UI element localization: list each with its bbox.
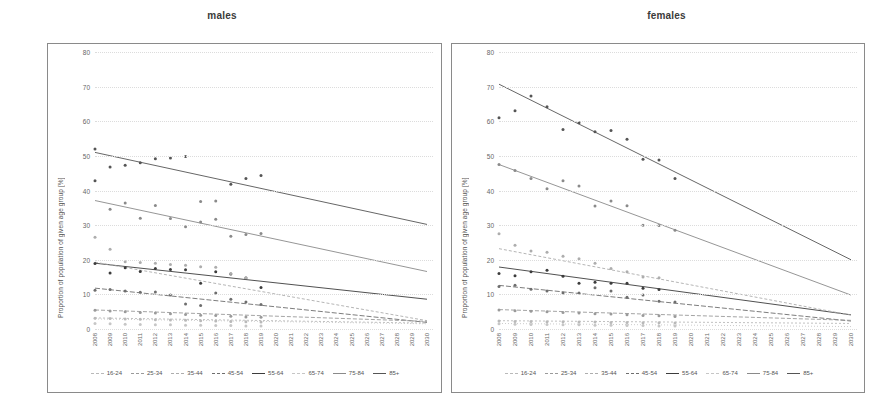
panel-females: females Proportion of population of give… [444, 0, 889, 413]
data-point-65-74 [546, 323, 549, 326]
data-point-45-54 [594, 286, 597, 289]
data-point-25-34 [94, 309, 97, 312]
data-point-65-74 [610, 324, 613, 327]
data-point-16-24 [244, 320, 247, 323]
legend-item-65-74[interactable]: 65-74 [292, 370, 323, 376]
x-axis-tick: 2009 [512, 333, 518, 346]
legend-item-25-34[interactable]: 25-34 [545, 370, 576, 376]
legend-item-16-24[interactable]: 16-24 [505, 370, 536, 376]
x-axis-tick: 2029 [409, 333, 415, 346]
legend-swatch-icon [585, 373, 598, 374]
data-point-75-84 [626, 204, 629, 207]
data-point-65-74 [658, 324, 661, 327]
x-axis-tick: 2012 [560, 333, 566, 346]
panel-males: males Proportion of population of given … [0, 0, 444, 413]
data-point-45-54 [94, 289, 97, 292]
legend-item-35-44[interactable]: 35-44 [171, 370, 202, 376]
legend-swatch-icon [212, 373, 225, 374]
legend-item-55-64[interactable]: 55-64 [666, 370, 697, 376]
data-point-85+ [169, 156, 172, 159]
data-point-25-34 [626, 313, 629, 316]
data-point-55-64 [546, 269, 549, 272]
data-point-25-34 [658, 314, 661, 317]
data-point-16-24 [578, 321, 581, 324]
x-axis-tick: 2011 [544, 333, 550, 346]
x-axis-tick: 2028 [816, 333, 822, 346]
data-point-25-34 [139, 311, 142, 314]
data-point-16-24 [626, 321, 629, 324]
data-point-55-64 [578, 282, 581, 285]
data-point-65-74 [244, 324, 247, 327]
data-point-16-24 [139, 318, 142, 321]
legend-item-65-74[interactable]: 65-74 [706, 370, 737, 376]
x-axis-tick: 2015 [608, 333, 614, 346]
legend-swatch-icon [505, 373, 518, 374]
data-point-85+ [514, 109, 517, 112]
x-axis-tick: 2022 [720, 333, 726, 346]
y-gridline [499, 260, 857, 261]
legend-item-55-64[interactable]: 55-64 [252, 370, 283, 376]
legend-label: 65-74 [722, 370, 737, 376]
data-point-55-64 [642, 287, 645, 290]
y-axis-tick: 0 [490, 326, 494, 333]
y-gridline [95, 156, 433, 157]
legend-item-16-24[interactable]: 16-24 [91, 370, 122, 376]
legend-item-85+[interactable]: 85+ [787, 370, 813, 376]
data-point-65-74 [514, 323, 517, 326]
data-point-16-24 [530, 320, 533, 323]
legend-item-35-44[interactable]: 35-44 [585, 370, 616, 376]
x-axis-tick: 2022 [303, 333, 309, 346]
legend-item-45-54[interactable]: 45-54 [626, 370, 657, 376]
y-gridline [95, 52, 433, 53]
y-axis-tick: 20 [487, 256, 494, 263]
data-point-25-34 [594, 312, 597, 315]
data-point-55-64 [154, 267, 157, 270]
panel-title-males: males [0, 10, 444, 21]
data-point-25-34 [184, 313, 187, 316]
data-point-25-34 [562, 311, 565, 314]
legend-label: 85+ [803, 370, 813, 376]
y-gridline [499, 87, 857, 88]
data-point-25-34 [154, 312, 157, 315]
x-axis-tick: 2019 [258, 333, 264, 346]
data-point-65-74 [626, 324, 629, 327]
x-axis-tick: 2023 [736, 333, 742, 346]
legend-item-75-84[interactable]: 75-84 [333, 370, 364, 376]
data-point-55-64 [594, 281, 597, 284]
x-axis-tick: 2016 [213, 333, 219, 346]
legend-item-75-84[interactable]: 75-84 [747, 370, 778, 376]
x-axis-tick: 2029 [832, 333, 838, 346]
data-point-35-44 [94, 236, 97, 239]
data-point-45-54 [244, 300, 247, 303]
legend-item-45-54[interactable]: 45-54 [212, 370, 243, 376]
legend-males: 16-2425-3435-4445-5455-6465-7475-8485+ [60, 370, 430, 376]
data-point-85+ [658, 159, 661, 162]
x-axis-tick: 2030 [424, 333, 430, 346]
data-point-75-84 [610, 199, 613, 202]
data-point-35-44 [199, 265, 202, 268]
data-point-35-44 [124, 260, 127, 263]
x-axis-tick: 2011 [137, 333, 143, 346]
legend-label: 25-34 [147, 370, 162, 376]
legend-label: 16-24 [107, 370, 122, 376]
y-gridline [95, 329, 433, 330]
x-axis-tick: 2025 [768, 333, 774, 346]
data-point-35-44 [184, 264, 187, 267]
y-gridline [499, 52, 857, 53]
y-axis-label-males: Proportion of population of given age gr… [57, 98, 64, 318]
legend-swatch-icon [666, 373, 679, 374]
data-point-75-84 [578, 184, 581, 187]
x-axis-tick: 2014 [183, 333, 189, 346]
x-axis-tick: 2026 [364, 333, 370, 346]
y-gridline [95, 294, 433, 295]
x-axis-tick: 2028 [394, 333, 400, 346]
data-point-65-74 [260, 324, 263, 327]
data-point-75-84 [139, 217, 142, 220]
data-point-16-24 [184, 319, 187, 322]
legend-item-85+[interactable]: 85+ [373, 370, 399, 376]
data-point-35-44 [244, 276, 247, 279]
data-point-16-24 [154, 318, 157, 321]
data-point-35-44 [498, 232, 501, 235]
data-point-85+ [594, 130, 597, 133]
legend-item-25-34[interactable]: 25-34 [131, 370, 162, 376]
